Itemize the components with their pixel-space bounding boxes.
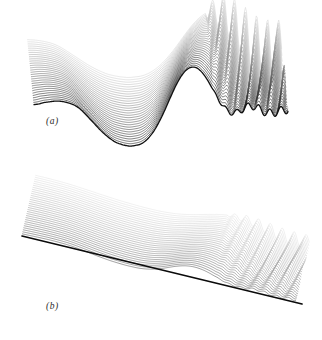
wave-curve bbox=[31, 195, 305, 265]
wave-curve bbox=[30, 199, 304, 269]
panel-a-label: (a) bbox=[46, 116, 59, 126]
panel-a-plot bbox=[0, 0, 322, 170]
panel-a bbox=[0, 0, 322, 170]
panel-b-label: (b) bbox=[46, 301, 59, 311]
waterfall-figure: (a) (b) bbox=[0, 0, 322, 340]
wave-curve bbox=[30, 197, 304, 267]
wave-curve bbox=[34, 183, 308, 254]
panel-b bbox=[0, 170, 322, 340]
panel-b-plot bbox=[0, 170, 322, 340]
wave-curve bbox=[33, 185, 307, 256]
